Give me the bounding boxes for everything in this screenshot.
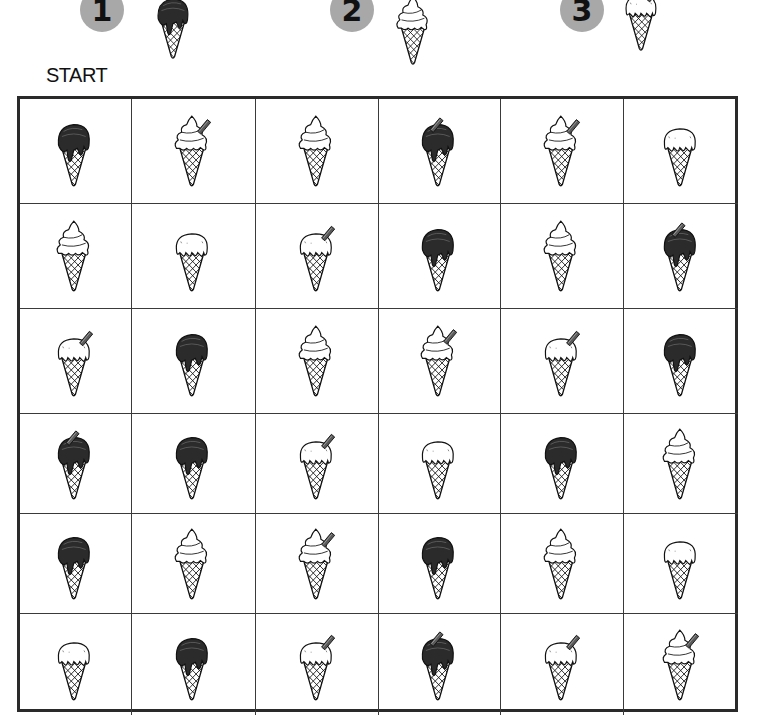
- white-scoop-with-flake-icon: [537, 321, 588, 401]
- white-scoop-icon: [168, 216, 219, 296]
- chocolate-scoop-icon: [414, 216, 465, 296]
- soft-serve-swirl-icon: [168, 524, 219, 604]
- soft-serve-swirl-icon: [537, 524, 588, 604]
- grid-cell-r6-c6[interactable]: [624, 614, 738, 715]
- grid-cell-r6-c1[interactable]: [20, 614, 132, 715]
- grid-cell-r5-c6[interactable]: [624, 514, 738, 614]
- chocolate-with-flake-icon: [656, 216, 707, 296]
- soft-serve-swirl-icon: [656, 424, 707, 504]
- soft-serve-swirl-icon: [537, 216, 588, 296]
- chocolate-scoop-icon: [656, 321, 707, 401]
- grid-cell-r2-c1[interactable]: [20, 204, 132, 309]
- soft-serve-swirl-icon: [292, 111, 343, 191]
- grid-cell-r2-c2[interactable]: [132, 204, 256, 309]
- grid-cell-r1-c4[interactable]: [379, 99, 501, 204]
- swirl-with-flake-icon: [168, 111, 219, 191]
- grid-cell-r3-c4[interactable]: [379, 309, 501, 414]
- grid-cell-r6-c4[interactable]: [379, 614, 501, 715]
- chocolate-scoop-icon: [537, 424, 588, 504]
- soft-serve-swirl-icon: [292, 321, 343, 401]
- grid-cell-r4-c4[interactable]: [379, 414, 501, 514]
- chocolate-scoop-icon: [168, 321, 219, 401]
- grid-cell-r3-c3[interactable]: [256, 309, 379, 414]
- grid-cell-r4-c3[interactable]: [256, 414, 379, 514]
- swirl-with-flake-icon: [414, 321, 465, 401]
- soft-serve-swirl-icon: [50, 216, 101, 296]
- grid-cell-r6-c2[interactable]: [132, 614, 256, 715]
- grid-cell-r4-c5[interactable]: [501, 414, 624, 514]
- chocolate-with-flake-icon: [414, 625, 465, 705]
- grid-cell-r4-c2[interactable]: [132, 414, 256, 514]
- step-2-badge: 2: [330, 0, 374, 32]
- swirl-with-flake-icon: [292, 524, 343, 604]
- white-scoop-icon: [656, 524, 707, 604]
- grid-cell-r3-c5[interactable]: [501, 309, 624, 414]
- white-scoop-with-flake-icon: [292, 625, 343, 705]
- white-scoop-with-flake-icon: [50, 321, 101, 401]
- start-label: START: [46, 64, 107, 87]
- grid-cell-r2-c3[interactable]: [256, 204, 379, 309]
- grid-cell-r5-c3[interactable]: [256, 514, 379, 614]
- step-3-badge: 3: [560, 0, 604, 32]
- grid-cell-r1-c5[interactable]: [501, 99, 624, 204]
- grid-cell-r1-c6[interactable]: [624, 99, 738, 204]
- swirl-with-flake-icon: [537, 111, 588, 191]
- grid-cell-r1-c1[interactable]: [20, 99, 132, 204]
- chocolate-scoop-icon: [168, 625, 219, 705]
- step-3-ice-cream-icon: [618, 0, 667, 55]
- grid-cell-r5-c1[interactable]: [20, 514, 132, 614]
- chocolate-with-flake-icon: [50, 424, 101, 504]
- grid-cell-r6-c3[interactable]: [256, 614, 379, 715]
- white-scoop-with-flake-icon: [537, 625, 588, 705]
- chocolate-with-flake-icon: [414, 111, 465, 191]
- grid-cell-r2-c5[interactable]: [501, 204, 624, 309]
- chocolate-scoop-icon: [168, 424, 219, 504]
- grid-cell-r4-c1[interactable]: [20, 414, 132, 514]
- grid-cell-r6-c5[interactable]: [501, 614, 624, 715]
- grid-cell-r5-c5[interactable]: [501, 514, 624, 614]
- grid-cell-r3-c2[interactable]: [132, 309, 256, 414]
- white-scoop-icon: [50, 625, 101, 705]
- white-scoop-with-flake-icon: [292, 424, 343, 504]
- step-1-ice-cream-icon: [150, 0, 199, 63]
- grid-cell-r3-c6[interactable]: [624, 309, 738, 414]
- grid-cell-r5-c4[interactable]: [379, 514, 501, 614]
- white-scoop-with-flake-icon: [292, 216, 343, 296]
- swirl-with-flake-icon: [656, 625, 707, 705]
- step-1-badge: 1: [80, 0, 124, 32]
- chocolate-scoop-icon: [50, 111, 101, 191]
- white-scoop-icon: [414, 424, 465, 504]
- white-scoop-icon: [656, 111, 707, 191]
- grid-cell-r2-c6[interactable]: [624, 204, 738, 309]
- chocolate-scoop-icon: [414, 524, 465, 604]
- grid-cell-r4-c6[interactable]: [624, 414, 738, 514]
- chocolate-scoop-icon: [50, 524, 101, 604]
- grid-cell-r3-c1[interactable]: [20, 309, 132, 414]
- grid-cell-r2-c4[interactable]: [379, 204, 501, 309]
- ice-cream-maze-grid: [17, 96, 738, 712]
- grid-cell-r1-c3[interactable]: [256, 99, 379, 204]
- step-2-ice-cream-icon: [390, 0, 439, 69]
- grid-cell-r1-c2[interactable]: [132, 99, 256, 204]
- grid-cell-r5-c2[interactable]: [132, 514, 256, 614]
